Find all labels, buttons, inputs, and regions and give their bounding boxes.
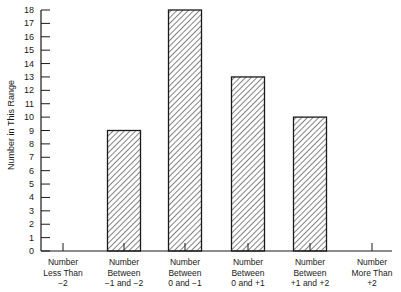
y-tick-label: 8 bbox=[29, 139, 34, 149]
y-axis-label: Number in This Range bbox=[6, 60, 20, 190]
y-tick-label: 11 bbox=[25, 99, 34, 109]
y-tick-label: 15 bbox=[24, 45, 34, 55]
y-tick-label: 9 bbox=[29, 126, 34, 136]
y-tick-label: 5 bbox=[29, 179, 34, 189]
y-tick-label: 7 bbox=[29, 152, 34, 162]
y-tick-label: 2 bbox=[29, 219, 34, 229]
y-tick-label: 3 bbox=[29, 206, 34, 216]
y-tick-label: 10 bbox=[24, 112, 34, 122]
plot-area: 0123456789101112131415161718 bbox=[0, 0, 401, 292]
y-tick-label: 16 bbox=[24, 32, 34, 42]
y-tick-label: 18 bbox=[24, 5, 34, 15]
axes bbox=[41, 10, 392, 251]
y-tick-label: 4 bbox=[29, 192, 34, 202]
x-category-label: Number Between 0 and +1 bbox=[216, 257, 280, 289]
y-tick-label: 0 bbox=[29, 246, 34, 256]
x-category-label: Number Between +1 and +2 bbox=[278, 257, 342, 289]
x-category-label: Number More Than +2 bbox=[340, 257, 401, 289]
y-tick-label: 1 bbox=[29, 233, 34, 243]
y-tick-label: 12 bbox=[24, 85, 34, 95]
histogram-chart: 0123456789101112131415161718 Number in T… bbox=[0, 0, 401, 292]
bar bbox=[232, 77, 265, 251]
x-category-label: Number Between −1 and −2 bbox=[92, 257, 156, 289]
bar bbox=[108, 131, 141, 252]
bars bbox=[63, 10, 372, 251]
y-tick-label: 14 bbox=[24, 59, 34, 69]
y-tick-label: 17 bbox=[24, 18, 34, 28]
y-tick-label: 6 bbox=[29, 166, 34, 176]
x-category-label: Number Between 0 and −1 bbox=[153, 257, 217, 289]
x-category-label: Number Less Than −2 bbox=[31, 257, 95, 289]
y-axis-ticks: 0123456789101112131415161718 bbox=[24, 5, 50, 256]
bar bbox=[294, 117, 327, 251]
bar bbox=[169, 10, 202, 251]
y-tick-label: 13 bbox=[24, 72, 34, 82]
